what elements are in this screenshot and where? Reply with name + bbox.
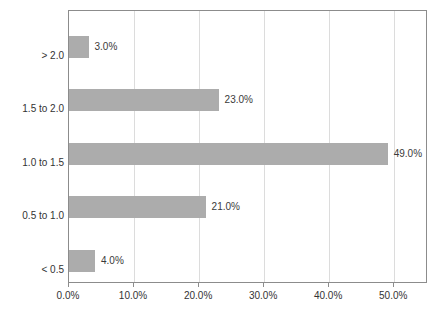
bar-row: 49.0% bbox=[69, 143, 422, 165]
bar-value-label: 3.0% bbox=[89, 42, 118, 52]
bar bbox=[69, 36, 89, 58]
y-axis-tick-label: 1.5 to 2.0 bbox=[0, 104, 64, 114]
y-axis-tick-label: 1.0 to 1.5 bbox=[0, 158, 64, 168]
bar-row: 3.0% bbox=[69, 36, 117, 58]
x-axis-tick bbox=[68, 283, 69, 287]
bar-row: 21.0% bbox=[69, 196, 240, 218]
x-axis-tick-label: 40.0% bbox=[314, 291, 342, 301]
y-axis-tick-label: 0.5 to 1.0 bbox=[0, 211, 64, 221]
y-axis-labels: > 2.0 1.5 to 2.0 1.0 to 1.5 0.5 to 1.0 <… bbox=[0, 10, 64, 283]
x-axis-tick bbox=[328, 283, 329, 287]
y-axis-tick-label: > 2.0 bbox=[0, 51, 64, 61]
bar-value-label: 4.0% bbox=[95, 256, 124, 266]
bar-chart: > 2.0 1.5 to 2.0 1.0 to 1.5 0.5 to 1.0 <… bbox=[0, 0, 442, 319]
bar bbox=[69, 89, 219, 111]
x-axis-tick bbox=[263, 283, 264, 287]
x-axis-tick-label: 10.0% bbox=[119, 291, 147, 301]
bar bbox=[69, 250, 95, 272]
x-axis-tick bbox=[133, 283, 134, 287]
x-axis-tick-label: 50.0% bbox=[379, 291, 407, 301]
x-axis-tick bbox=[198, 283, 199, 287]
bar-value-label: 49.0% bbox=[388, 149, 422, 159]
bar bbox=[69, 143, 388, 165]
x-axis-tick-label: 20.0% bbox=[184, 291, 212, 301]
x-axis-tick bbox=[393, 283, 394, 287]
bar-row: 23.0% bbox=[69, 89, 253, 111]
y-axis-tick-label: < 0.5 bbox=[0, 265, 64, 275]
x-axis-tick-label: 0.0% bbox=[57, 291, 80, 301]
plot-area: 3.0% 23.0% 49.0% 21.0% 4.0% bbox=[68, 10, 427, 283]
bar-value-label: 23.0% bbox=[219, 95, 253, 105]
bar bbox=[69, 196, 206, 218]
x-axis-tick-label: 30.0% bbox=[249, 291, 277, 301]
bar-row: 4.0% bbox=[69, 250, 124, 272]
x-axis: 0.0% 10.0% 20.0% 30.0% 40.0% 50.0% bbox=[68, 283, 427, 313]
bar-value-label: 21.0% bbox=[206, 202, 240, 212]
